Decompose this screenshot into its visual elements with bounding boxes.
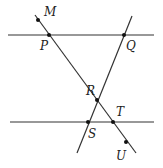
point-m [36,18,40,22]
labels-layer: MPQRSTU [39,5,136,163]
point-label-r: R [85,84,95,98]
point-label-q: Q [126,39,136,53]
geometry-diagram: MPQRSTU [0,0,163,168]
point-t [111,120,115,124]
point-p [47,33,51,37]
lines-layer [8,15,154,153]
point-label-t: T [116,105,125,119]
point-r [95,98,99,102]
point-label-u: U [116,149,127,163]
point-label-s: S [88,127,96,141]
point-s [86,120,90,124]
points-layer [36,18,128,144]
point-label-p: P [39,39,49,53]
point-q [122,33,126,37]
point-label-m: M [43,5,57,19]
point-u [124,140,128,144]
